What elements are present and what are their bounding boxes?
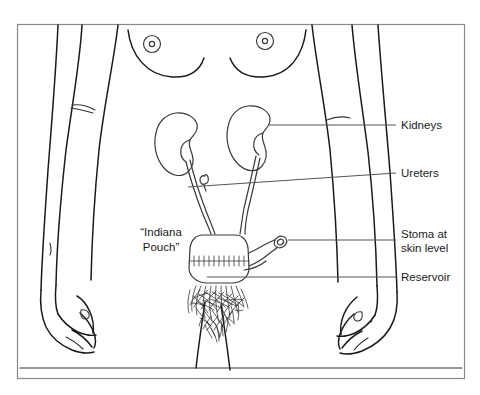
label-indiana-pouch-line2: Pouch”: [143, 241, 180, 253]
pubic-hair-region: [188, 286, 248, 342]
right-kidney-outline: [227, 106, 270, 171]
left-hand-finger-crease: [66, 337, 83, 349]
right-inner-thigh-contour: [221, 305, 230, 370]
right-breast-underline: [230, 30, 306, 77]
left-hand-outer-contour: [41, 290, 94, 353]
left-hand: [41, 285, 96, 353]
kidneys-group: [155, 106, 270, 176]
diagram-canvas: Kidneys Ureters Stoma at skin level Rese…: [0, 0, 480, 395]
right-arm-inner-contour: [352, 25, 377, 286]
left-breast-underline: [128, 30, 204, 77]
left-wrist-crease: [50, 243, 51, 255]
indiana-pouch-diagram: Kidneys Ureters Stoma at skin level Rese…: [0, 0, 480, 395]
label-reservoir: Reservoir: [401, 271, 450, 283]
label-ureters: Ureters: [401, 167, 439, 179]
label-stoma-line1: Stoma at: [401, 228, 448, 240]
left-hand-thumb-base: [55, 285, 58, 314]
left-arm-outer-contour: [41, 25, 58, 290]
reservoir-pouch: [189, 235, 249, 283]
right-hand-thumb-base: [375, 286, 378, 315]
right-nipple-outer-ring: [257, 33, 274, 50]
left-arm-crease-2: [71, 108, 93, 113]
right-hand-finger-crease-2: [354, 338, 368, 350]
right-torso-side-contour: [312, 25, 338, 282]
stoma-tube: [244, 234, 289, 270]
left-nipple-outer-ring: [144, 36, 161, 53]
ureter-vessel-curl-tail: [204, 184, 206, 191]
ureters-leader-line: [188, 173, 396, 187]
right-hand: [337, 286, 397, 354]
stoma-opening-outer: [272, 234, 289, 250]
left-ureter-wall-a: [186, 162, 211, 234]
right-arm-outer-contour: [378, 25, 397, 292]
label-stoma-line2: skin level: [401, 242, 448, 254]
left-nipple-inner-ring: [149, 41, 154, 46]
diagram-frame: [18, 25, 465, 379]
left-ring-finger: [72, 330, 92, 347]
label-kidneys: Kidneys: [401, 119, 442, 131]
right-hand-knuckle-detail: [354, 312, 363, 321]
right-hand-finger-crease: [359, 321, 372, 332]
right-nipple-inner-ring: [262, 38, 267, 43]
label-indiana-pouch-line1: “Indiana: [140, 226, 182, 238]
left-ureter-wall-b: [190, 160, 215, 234]
right-arm-crease: [327, 117, 350, 120]
left-torso-side-contour: [91, 25, 118, 280]
ureter-vessel-curl: [200, 175, 208, 185]
left-arm-inner-contour: [56, 25, 82, 285]
